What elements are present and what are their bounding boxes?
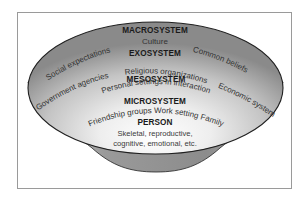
macrosystem-culture: Culture: [142, 37, 168, 46]
person-title: PERSON: [137, 118, 172, 127]
person-line-1: Skeletal, reproductive,: [117, 129, 192, 138]
ecological-systems-diagram: MACROSYSTEM Culture Social expectations …: [0, 0, 306, 200]
person-line-2: cognitive, emotional, etc.: [113, 139, 197, 148]
microsystem-title: MICROSYSTEM: [124, 97, 186, 106]
exosystem-title: EXOSYSTEM: [129, 49, 181, 58]
macrosystem-title: MACROSYSTEM: [122, 26, 188, 35]
